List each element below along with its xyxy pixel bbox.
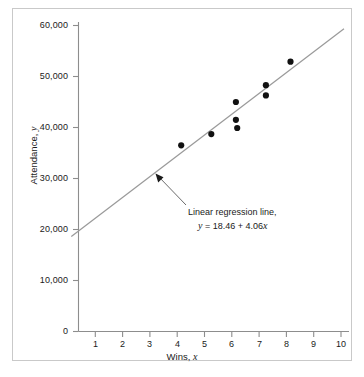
callout-arrow bbox=[156, 174, 187, 206]
data-point bbox=[208, 131, 214, 137]
y-tick-label-20000: 20,000 bbox=[18, 224, 68, 234]
y-axis-title-variable: y bbox=[28, 127, 39, 131]
regression-annotation: Linear regression line, y = 18.46 + 4.06… bbox=[188, 206, 348, 233]
x-axis-ticks bbox=[95, 332, 341, 338]
y-tick-label-50000: 50,000 bbox=[18, 71, 68, 81]
y-axis-title-text: Attendance, bbox=[28, 131, 39, 184]
data-point bbox=[178, 142, 184, 148]
x-tick-label-2: 2 bbox=[112, 339, 133, 349]
data-point bbox=[263, 82, 269, 88]
x-tick-label-10: 10 bbox=[330, 339, 352, 349]
data-point bbox=[233, 117, 239, 123]
x-tick-label-1: 1 bbox=[85, 339, 106, 349]
y-tick-label-40000: 40,000 bbox=[18, 122, 68, 132]
x-axis-title-variable: x bbox=[193, 351, 197, 362]
x-axis-title: Wins, x bbox=[0, 351, 364, 362]
chart-figure: 60,000 50,000 40,000 30,000 20,000 10,00… bbox=[0, 0, 364, 377]
y-tick-label-60000: 60,000 bbox=[18, 20, 68, 30]
annotation-line-1: Linear regression line, bbox=[188, 206, 348, 219]
data-point bbox=[234, 125, 240, 131]
x-tick-label-4: 4 bbox=[167, 339, 188, 349]
data-points bbox=[178, 59, 294, 149]
callout-arrow-head bbox=[156, 174, 164, 183]
x-axis-title-text: Wins, bbox=[167, 351, 193, 362]
y-axis-title: Attendance, y bbox=[28, 101, 39, 211]
y-axis-ticks bbox=[73, 26, 79, 332]
axis-lines bbox=[79, 22, 350, 332]
x-tick-label-7: 7 bbox=[249, 339, 270, 349]
x-tick-label-5: 5 bbox=[194, 339, 215, 349]
x-tick-label-9: 9 bbox=[303, 339, 324, 349]
annotation-eq-body: = 18.46 + 4.06 bbox=[202, 221, 263, 231]
data-point bbox=[233, 99, 239, 105]
scatter-plot-canvas bbox=[0, 0, 364, 377]
y-tick-label-10000: 10,000 bbox=[18, 275, 68, 285]
data-point bbox=[263, 92, 269, 98]
annotation-eq-var: x bbox=[263, 220, 267, 231]
x-tick-label-6: 6 bbox=[221, 339, 242, 349]
data-point bbox=[287, 59, 293, 65]
y-tick-label-0: 0 bbox=[18, 326, 68, 336]
x-tick-label-8: 8 bbox=[276, 339, 297, 349]
callout-leader-line bbox=[159, 177, 187, 206]
annotation-line-2: y = 18.46 + 4.06x bbox=[188, 219, 348, 233]
y-tick-label-30000: 30,000 bbox=[18, 173, 68, 183]
x-tick-label-3: 3 bbox=[139, 339, 160, 349]
